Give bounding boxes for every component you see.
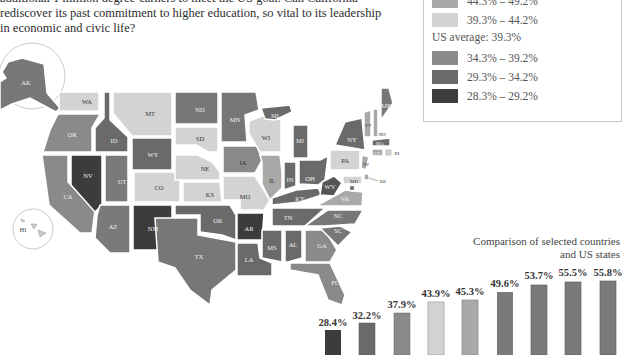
bar-value-label: 55.8% xyxy=(594,267,623,278)
bar xyxy=(531,285,547,355)
bar xyxy=(394,313,410,355)
bar-value-label: 28.4% xyxy=(319,317,348,328)
bar xyxy=(462,300,478,355)
bar xyxy=(359,323,375,355)
bar xyxy=(428,302,444,355)
bar xyxy=(600,281,616,355)
bar-value-label: 43.9% xyxy=(422,288,451,299)
bar-value-label: 55.5% xyxy=(559,267,588,278)
comparison-bar-chart: 28.4% 32.2% 37.9% 43.9% 45.3% 49.6% 53.7… xyxy=(0,0,631,355)
bar-value-label: 49.6% xyxy=(491,278,520,289)
bar xyxy=(565,282,581,355)
bar xyxy=(325,330,341,355)
bar-value-label: 53.7% xyxy=(525,270,554,281)
bar-value-label: 32.2% xyxy=(353,310,382,321)
bar-value-label: 37.9% xyxy=(388,299,417,310)
bar-value-label: 45.3% xyxy=(456,286,485,297)
bar xyxy=(497,292,513,355)
